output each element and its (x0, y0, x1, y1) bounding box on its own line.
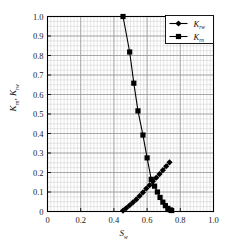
y-tick-label: 0.5 (33, 109, 44, 119)
x-tick-label: 0 (45, 215, 49, 225)
data-point-marker (145, 155, 150, 160)
y-tick-label: 0.4 (33, 129, 44, 139)
x-tick-label: 0.8 (175, 215, 186, 225)
y-tick-label: 0.2 (33, 168, 44, 178)
y-tick-label: 0.6 (33, 90, 44, 100)
data-point-marker (155, 189, 160, 194)
legend: KrwKrn (166, 16, 214, 44)
y-tick-label: 0.3 (33, 148, 44, 158)
data-point-marker (120, 14, 125, 19)
x-tick-label: 0.2 (75, 215, 86, 225)
x-tick-label: 0.4 (109, 215, 120, 225)
y-tick-label: 0 (39, 207, 43, 217)
data-point-marker (157, 195, 162, 200)
data-point-marker (127, 49, 132, 54)
x-tick-label: 0.6 (142, 215, 153, 225)
data-point-marker (152, 184, 157, 189)
legend-box (166, 16, 214, 44)
data-point-marker (131, 81, 136, 86)
legend-label-sub: rn (199, 37, 204, 43)
data-point-marker (149, 177, 154, 182)
x-tick-label: 1.0 (208, 215, 219, 225)
y-tick-label: 1.0 (33, 12, 44, 22)
data-point-marker (169, 208, 174, 213)
legend-label-sub: rw (199, 24, 205, 30)
chart-figure: Krn, Krw Sw 00.20.40.60.81.000.10.20.30.… (0, 0, 247, 246)
y-tick-label: 0.8 (33, 51, 44, 61)
plot-canvas: 00.20.40.60.81.000.10.20.30.40.50.60.70.… (0, 0, 247, 246)
y-tick-label: 0.7 (33, 70, 44, 80)
y-tick-label: 0.9 (33, 31, 44, 41)
data-point-marker (135, 108, 140, 113)
data-point-marker (176, 34, 181, 39)
y-tick-label: 0.1 (33, 187, 44, 197)
data-point-marker (140, 132, 145, 137)
